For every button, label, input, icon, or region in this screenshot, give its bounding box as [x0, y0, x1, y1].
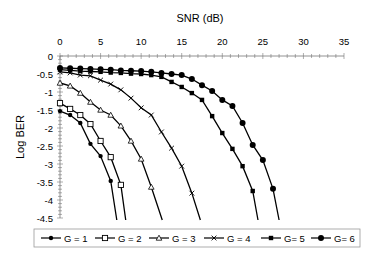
series-g=3: [57, 80, 162, 220]
y-tick-label: -0.5: [37, 69, 53, 80]
x-axis-title: SNR (dB): [176, 12, 223, 24]
y-tick-label: -4: [45, 195, 53, 206]
x-tick-label: 10: [136, 36, 147, 47]
x-tick-label: 0: [57, 36, 62, 47]
series-g=2: [57, 101, 125, 220]
y-tick-label: -4.5: [37, 213, 53, 224]
legend: G = 1G = 2G = 3G = 4G= 5G= 6: [34, 229, 360, 247]
y-tick-label: 0: [48, 51, 53, 62]
y-tick-label: -1.5: [37, 105, 53, 116]
y-tick-label: -2: [45, 123, 53, 134]
x-tick-label: 30: [298, 36, 309, 47]
series-g=1: [58, 109, 117, 220]
y-tick-labels: 0-0.5-1-1.5-2-2.5-3-3.5-4-4.5: [37, 51, 53, 224]
series-g=5: [58, 67, 258, 220]
legend-label: G= 5: [284, 233, 305, 244]
y-tick-label: -2.5: [37, 141, 53, 152]
ber-vs-snr-chart: SNR (dB) 05101520253035 0-0.5-1-1.5-2-2.…: [0, 0, 380, 260]
legend-label: G = 2: [118, 233, 142, 244]
legend-label: G = 3: [172, 233, 196, 244]
x-tick-label: 20: [217, 36, 228, 47]
x-tick-label: 15: [176, 36, 187, 47]
x-tick-label: 5: [98, 36, 103, 47]
legend-label: G= 6: [334, 233, 355, 244]
data-series: [57, 65, 279, 220]
axes: [57, 53, 344, 218]
x-tick-labels: 05101520253035: [57, 36, 349, 47]
y-tick-label: -3: [45, 159, 53, 170]
y-tick-label: -1: [45, 87, 53, 98]
x-tick-label: 25: [258, 36, 269, 47]
legend-label: G = 4: [227, 233, 251, 244]
y-tick-label: -3.5: [37, 177, 53, 188]
legend-label: G = 1: [64, 233, 88, 244]
y-axis-title: Log BER: [14, 115, 26, 159]
x-tick-label: 35: [339, 36, 350, 47]
